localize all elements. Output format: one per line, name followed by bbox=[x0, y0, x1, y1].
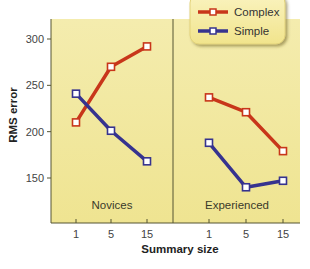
data-point-marker-icon bbox=[73, 90, 80, 97]
data-point-marker-icon bbox=[280, 177, 287, 184]
x-tick-label: 1 bbox=[73, 228, 79, 240]
legend-label-complex: Complex bbox=[234, 6, 280, 18]
data-point-marker-icon bbox=[243, 109, 250, 116]
y-tick-label: 200 bbox=[26, 126, 44, 138]
data-point-marker-icon bbox=[108, 63, 115, 70]
plot-area bbox=[51, 19, 300, 223]
x-tick-label: 15 bbox=[277, 228, 289, 240]
chart: 150200250300 15151515 Novices Experience… bbox=[0, 0, 310, 269]
legend-marker-complex-icon bbox=[210, 9, 216, 15]
panel-label-experienced: Experienced bbox=[205, 199, 269, 211]
x-tick-label: 5 bbox=[243, 228, 249, 240]
legend-marker-simple-icon bbox=[210, 28, 216, 34]
legend-label-simple: Simple bbox=[234, 25, 269, 37]
data-point-marker-icon bbox=[73, 119, 80, 126]
y-ticks: 150200250300 bbox=[26, 33, 51, 184]
data-point-marker-icon bbox=[206, 94, 213, 101]
data-point-marker-icon bbox=[108, 127, 115, 134]
y-tick-label: 150 bbox=[26, 172, 44, 184]
y-axis-title: RMS error bbox=[7, 87, 19, 143]
data-point-marker-icon bbox=[280, 148, 287, 155]
x-axis-title: Summary size bbox=[141, 243, 218, 255]
legend: Complex Simple bbox=[190, 0, 285, 44]
y-tick-label: 300 bbox=[26, 33, 44, 45]
x-tick-label: 1 bbox=[206, 228, 212, 240]
x-tick-label: 15 bbox=[141, 228, 153, 240]
data-point-marker-icon bbox=[243, 184, 250, 191]
panel-label-novices: Novices bbox=[92, 199, 133, 211]
x-tick-label: 5 bbox=[108, 228, 114, 240]
data-point-marker-icon bbox=[144, 158, 151, 165]
data-point-marker-icon bbox=[206, 139, 213, 146]
data-point-marker-icon bbox=[144, 43, 151, 50]
y-tick-label: 250 bbox=[26, 79, 44, 91]
